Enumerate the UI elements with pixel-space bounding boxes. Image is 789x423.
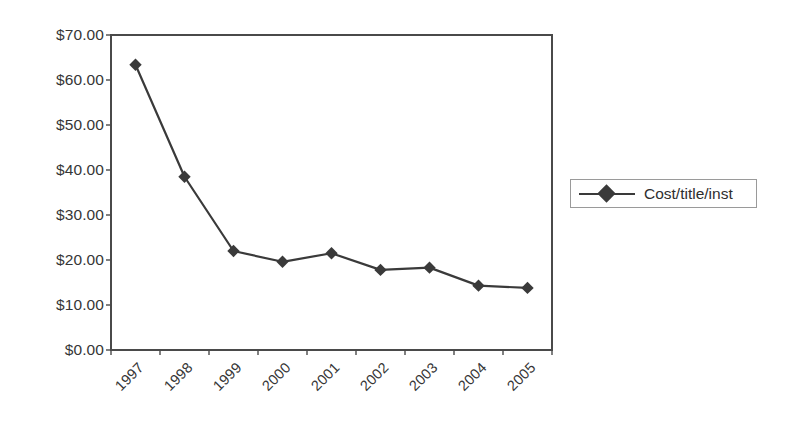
y-axis-tick-label: $60.00 [28,72,104,88]
y-axis-tick-label: $70.00 [28,27,104,43]
plot-frame [111,35,552,350]
legend-label: Cost/title/inst [644,186,733,202]
plot-border [111,35,552,350]
y-axis-tick-label: $30.00 [28,207,104,223]
chart-plot-area [0,0,789,423]
chart-figure: $0.00$10.00$20.00$30.00$40.00$50.00$60.0… [0,0,789,423]
y-axis-tick-label: $0.00 [28,342,104,358]
legend-swatch [579,184,635,204]
y-axis-tick-label: $50.00 [28,117,104,133]
diamond-marker-icon [597,184,615,202]
y-axis-tick-label: $10.00 [28,297,104,313]
legend-entry: Cost/title/inst [571,180,756,207]
chart-legend: Cost/title/inst [570,179,757,208]
y-axis-tick-labels: $0.00$10.00$20.00$30.00$40.00$50.00$60.0… [24,0,104,423]
y-axis-tick-label: $40.00 [28,162,104,178]
y-axis-tick-label: $20.00 [28,252,104,268]
